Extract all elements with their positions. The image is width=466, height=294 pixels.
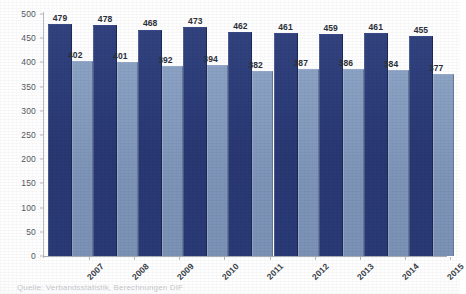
y-axis-tick-label: 400 [0, 57, 36, 67]
y-axis-tick-label: 200 [0, 154, 36, 164]
plot-area: 4794024784014683924733944623824613874593… [44, 14, 450, 256]
x-axis-tick-mark [179, 257, 180, 260]
bar-value-label-series-b: 384 [384, 59, 398, 69]
x-axis-label: 2013 [355, 261, 376, 282]
x-axis-tick-mark [360, 257, 361, 260]
x-axis-label: 2014 [400, 261, 421, 282]
y-axis-tick-label: 0 [0, 251, 36, 261]
x-axis-line [43, 256, 447, 257]
x-axis-label: 2011 [265, 261, 286, 282]
bar-value-label-series-b: 387 [294, 58, 308, 68]
x-axis-label: 2007 [84, 261, 105, 282]
bar-value-label-series-b: 382 [248, 60, 262, 70]
bar-value-label-series-b: 392 [158, 55, 172, 65]
bar-value-label-series-a: 455 [403, 25, 439, 35]
x-axis-tick-mark [405, 257, 406, 260]
x-axis-tick-mark [270, 257, 271, 260]
y-axis-tick-label: 500 [0, 9, 36, 19]
bar-series-b [207, 65, 228, 256]
bar-value-label-series-a: 468 [132, 18, 168, 28]
x-axis-label: 2008 [129, 261, 150, 282]
x-axis-tick-mark [450, 257, 451, 260]
figure-source-caption: Quelle: Verbandsstatistik, Berechnungen … [17, 283, 183, 292]
y-axis-tick-label: 50 [0, 227, 36, 237]
bar-value-label-series-a: 473 [177, 16, 213, 26]
bar-value-label-series-b: 394 [203, 54, 217, 64]
bar-value-label-series-a: 478 [87, 14, 123, 24]
x-axis-tick-mark [89, 257, 90, 260]
y-axis-tick-label: 350 [0, 82, 36, 92]
y-axis-tick-label: 300 [0, 106, 36, 116]
x-axis-label: 2009 [174, 261, 195, 282]
bar-series-b [162, 66, 183, 256]
y-axis-tick-label: 150 [0, 178, 36, 188]
bar-series-b [72, 61, 93, 256]
bar-value-label-series-a: 461 [268, 22, 304, 32]
bar-series-b [388, 70, 409, 256]
bar-value-label-series-b: 401 [113, 51, 127, 61]
bar-series-b [117, 62, 138, 256]
bar-value-label-series-b: 402 [68, 50, 82, 60]
y-axis-tick-label: 450 [0, 33, 36, 43]
bar-value-label-series-a: 459 [313, 23, 349, 33]
bar-series-b [298, 69, 319, 256]
x-axis-tick-mark [134, 257, 135, 260]
bar-value-label-series-a: 462 [222, 21, 258, 31]
x-axis-tick-mark [315, 257, 316, 260]
y-axis-tick-label: 250 [0, 130, 36, 140]
bar-series-b [343, 69, 364, 256]
x-axis-label: 2012 [310, 261, 331, 282]
bar-series-b [252, 71, 273, 256]
bar-series-b [433, 74, 454, 256]
x-axis-tick-mark [224, 257, 225, 260]
bar-value-label-series-a: 479 [42, 13, 78, 23]
x-axis-label: 2015 [445, 261, 466, 282]
y-axis-tick-label: 100 [0, 203, 36, 213]
bar-value-label-series-a: 461 [358, 22, 394, 32]
x-axis-label: 2010 [220, 261, 241, 282]
bar-value-label-series-b: 386 [339, 58, 353, 68]
bar-value-label-series-b: 377 [429, 63, 443, 73]
